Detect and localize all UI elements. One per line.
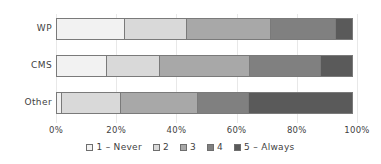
legend-item: 3 xyxy=(180,142,196,152)
bar-segment-1 xyxy=(56,55,107,77)
bar-segment-3 xyxy=(186,18,270,40)
bar-segment-2 xyxy=(124,18,187,40)
legend-item: 2 xyxy=(153,142,169,152)
y-axis-label: Other xyxy=(4,97,52,107)
bar-segment-4 xyxy=(249,55,321,77)
y-axis-label: WP xyxy=(4,23,52,33)
legend-item: 1 – Never xyxy=(86,142,141,152)
legend-label: 3 xyxy=(190,142,196,152)
x-axis-tick-label: 20% xyxy=(106,125,126,135)
x-axis-tick-label: 100% xyxy=(344,125,370,135)
chart-legend: 1 – Never2345 – Always xyxy=(0,142,381,152)
legend-label: 1 – Never xyxy=(96,142,141,152)
bar-segment-2 xyxy=(61,92,121,114)
legend-label: 2 xyxy=(163,142,169,152)
legend-label: 5 – Always xyxy=(244,142,295,152)
bar-segment-4 xyxy=(197,92,248,114)
legend-swatch-icon xyxy=(180,144,187,151)
bar-segment-2 xyxy=(106,55,160,77)
bar-segment-3 xyxy=(120,92,198,114)
bar-segment-4 xyxy=(270,18,336,40)
x-axis-tick-label: 80% xyxy=(287,125,307,135)
legend-swatch-icon xyxy=(207,144,214,151)
bar-row xyxy=(56,18,357,40)
gridline xyxy=(357,14,358,123)
legend-item: 5 – Always xyxy=(234,142,295,152)
legend-label: 4 xyxy=(217,142,223,152)
y-axis: WPCMSOther xyxy=(0,14,52,123)
bar-row xyxy=(56,55,357,77)
y-axis-label: CMS xyxy=(4,60,52,70)
legend-swatch-icon xyxy=(86,144,93,151)
bar-segment-5 xyxy=(248,92,353,114)
x-axis-tick-label: 0% xyxy=(49,125,63,135)
bar-row xyxy=(56,92,357,114)
plot-area xyxy=(56,14,357,123)
x-axis-tick-label: 60% xyxy=(227,125,247,135)
bar-segment-5 xyxy=(335,18,353,40)
x-axis: 0%20%40%60%80%100% xyxy=(56,125,357,139)
bar-segment-3 xyxy=(159,55,249,77)
bar-segment-5 xyxy=(320,55,353,77)
x-axis-tick-label: 40% xyxy=(166,125,186,135)
bar-segment-1 xyxy=(56,18,125,40)
legend-item: 4 xyxy=(207,142,223,152)
legend-swatch-icon xyxy=(234,144,241,151)
stacked-bar-chart: WPCMSOther 0%20%40%60%80%100% 1 – Never2… xyxy=(0,0,381,164)
legend-swatch-icon xyxy=(153,144,160,151)
